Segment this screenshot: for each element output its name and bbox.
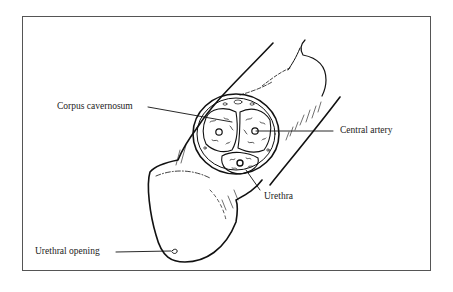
label-urethral-opening: Urethral opening [35, 247, 100, 257]
cross-section [193, 94, 279, 174]
label-central-artery: Central artery [340, 126, 393, 136]
glans-outline [148, 128, 262, 262]
label-corpus-cavernosum: Corpus cavernosum [57, 102, 133, 112]
shaft-outline [197, 40, 340, 185]
label-urethra: Urethra [264, 192, 293, 202]
